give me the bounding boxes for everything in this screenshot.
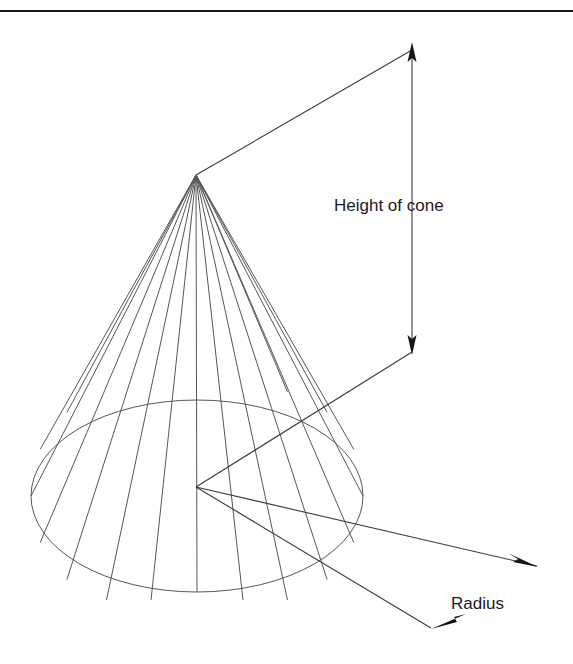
generator-line	[151, 175, 196, 600]
height-leader-lower	[196, 352, 412, 487]
radius-leader-lower	[196, 487, 431, 628]
height-label: Height of cone	[334, 196, 444, 215]
generator-line	[196, 175, 288, 600]
generator-line	[40, 175, 196, 449]
generator-line	[196, 175, 288, 392]
generator-line	[31, 175, 196, 496]
figure-canvas: Height of cone Radius	[0, 0, 573, 664]
generator-line	[107, 175, 197, 600]
radius-arrow-lower-icon	[431, 614, 466, 629]
generator-line	[40, 175, 196, 543]
generator-line	[196, 175, 243, 600]
cone-generator-lines	[31, 175, 363, 600]
height-leader-upper	[196, 50, 412, 175]
generator-line	[196, 175, 354, 449]
radius-label: Radius	[451, 594, 504, 613]
cone-diagram: Height of cone Radius	[0, 0, 573, 664]
radius-leader-upper	[196, 487, 537, 566]
generator-line	[196, 175, 197, 592]
generator-line	[196, 175, 363, 496]
